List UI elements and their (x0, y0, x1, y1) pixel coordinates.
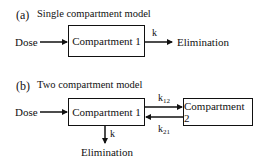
compartment-1-label-b: Compartment 1 (72, 106, 141, 118)
rate-k-label-a: k (152, 28, 157, 38)
panel-a-title: Single compartment model (37, 9, 151, 20)
compartment-1-box-a: Compartment 1 (68, 25, 145, 57)
dose-label-b: Dose (15, 107, 38, 118)
compartment-1-box-b: Compartment 1 (68, 98, 145, 126)
rate-k21-label: k21 (158, 124, 170, 136)
compartment-2-label: Compartment 2 (184, 100, 252, 124)
rate-k12-label: k12 (158, 93, 170, 105)
elimination-label-b: Elimination (81, 147, 133, 158)
compartment-1-label-a: Compartment 1 (72, 35, 141, 47)
rate-k-elim-label-b: k (110, 129, 115, 139)
panel-a-tag: (a) (16, 9, 29, 21)
compartment-2-box: Compartment 2 (183, 98, 253, 126)
panel-b-title: Two compartment model (37, 80, 142, 91)
elimination-label-a: Elimination (177, 37, 229, 48)
dose-label-a: Dose (15, 37, 38, 48)
panel-b-tag: (b) (16, 80, 30, 92)
